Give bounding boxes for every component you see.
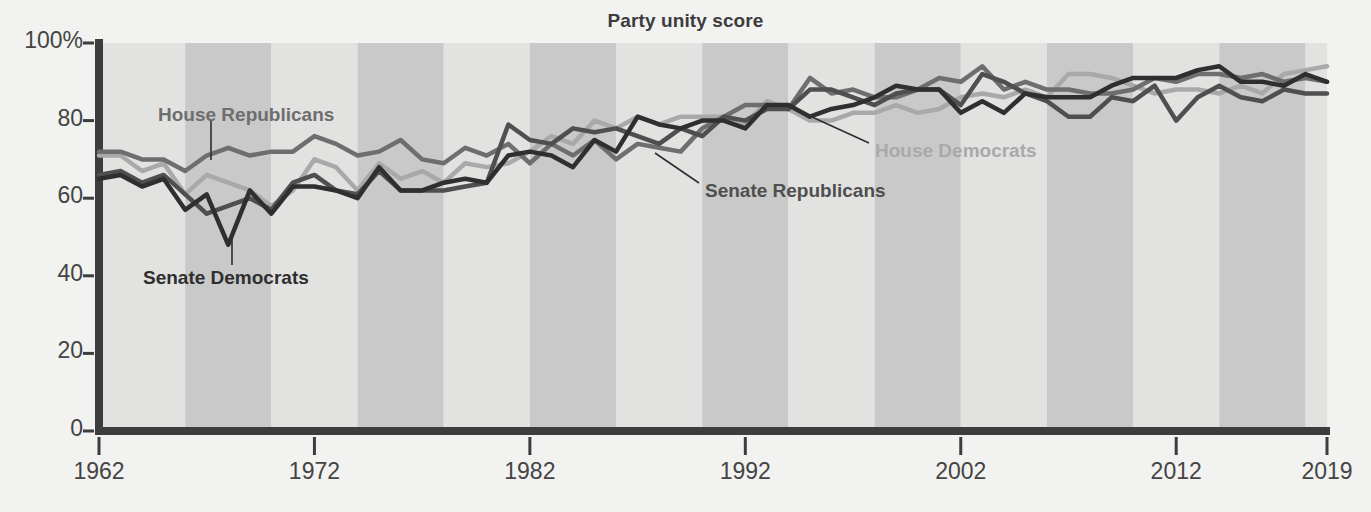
background-bands — [99, 43, 1327, 431]
background-band — [1047, 43, 1133, 431]
x-axis-tick-label: 2019 — [1301, 458, 1352, 485]
background-band — [271, 43, 357, 431]
x-axis-tick-label: 2012 — [1151, 458, 1202, 485]
background-band — [1133, 43, 1219, 431]
x-axis-tick-label: 1982 — [504, 458, 555, 485]
chart-plot-area — [0, 0, 1371, 512]
series-annotation-label: Senate Republicans — [705, 180, 886, 202]
y-axis-tick-label: 60 — [57, 182, 83, 209]
x-axis-tick-label: 1962 — [73, 458, 124, 485]
x-axis-tick-label: 1972 — [289, 458, 340, 485]
background-band — [99, 43, 185, 431]
x-axis-tick-label: 2002 — [935, 458, 986, 485]
y-axis-tick-label: 20 — [57, 337, 83, 364]
y-axis-tick-label: 80 — [57, 105, 83, 132]
background-band — [961, 43, 1047, 431]
background-band — [1305, 43, 1327, 431]
series-annotation-label: House Republicans — [158, 104, 334, 126]
background-band — [702, 43, 788, 431]
background-band — [616, 43, 702, 431]
background-band — [530, 43, 616, 431]
series-annotation-label: Senate Democrats — [143, 267, 309, 289]
chart-container: Party unity score 020406080100% 19621972… — [0, 0, 1371, 512]
background-band — [444, 43, 530, 431]
series-annotation-label: House Democrats — [875, 140, 1037, 162]
y-axis-tick-label: 40 — [57, 260, 83, 287]
background-band — [358, 43, 444, 431]
y-axis-tick-label: 100% — [24, 27, 83, 54]
y-axis-tick-label: 0 — [70, 415, 83, 442]
background-band — [185, 43, 271, 431]
x-axis-tick-label: 1992 — [720, 458, 771, 485]
